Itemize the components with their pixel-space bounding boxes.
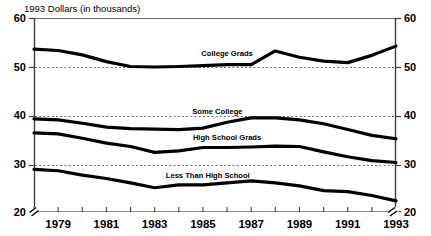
line-chart: 6050403020 6050403020 197919811983198519… <box>0 0 431 236</box>
y-axis-right-labels: 6050403020 <box>404 12 416 218</box>
y-axis-left-tick-label: 40 <box>14 109 26 121</box>
x-axis-tick-label: 1987 <box>238 218 264 230</box>
y-axis-right-tick-label: 50 <box>404 61 416 73</box>
x-axis-tick-label: 1993 <box>383 218 409 230</box>
x-axis-tick-label: 1985 <box>190 218 216 230</box>
y-axis-right-tick-label: 20 <box>404 206 416 218</box>
chart-title: 1993 Dollars (in thousands) <box>24 3 140 14</box>
y-axis-right-tick-label: 40 <box>404 109 416 121</box>
x-axis-tick-label: 1989 <box>287 218 313 230</box>
series-label-less-than-high-school: Less Than High School <box>166 171 250 180</box>
x-axis-tick-label: 1983 <box>142 218 168 230</box>
y-axis-right-tick-label: 30 <box>404 158 416 170</box>
series-label-college-grads: College Grads <box>201 49 252 58</box>
x-axis-tick-label: 1991 <box>335 218 361 230</box>
y-axis-left-ticks <box>29 19 34 212</box>
y-axis-left-labels: 6050403020 <box>14 12 26 218</box>
series-label-some-college: Some College <box>192 107 242 116</box>
x-axis-labels: 19791981198319851987198919911993 <box>45 218 408 230</box>
x-axis-tick-label: 1981 <box>94 218 120 230</box>
y-axis-left-tick-label: 30 <box>14 158 26 170</box>
chart-screenshot: 6050403020 6050403020 197919811983198519… <box>0 0 431 236</box>
series-label-high-school-grads: High School Grads <box>193 133 261 142</box>
x-axis-tick-label: 1979 <box>45 218 71 230</box>
y-axis-right-tick-label: 60 <box>404 12 416 24</box>
y-axis-left-tick-label: 20 <box>14 206 26 218</box>
y-axis-left-tick-label: 50 <box>14 61 26 73</box>
